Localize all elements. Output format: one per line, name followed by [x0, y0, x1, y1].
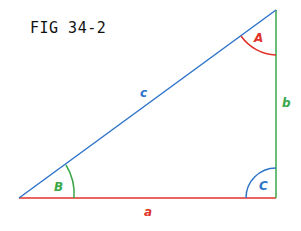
side-c — [19, 10, 276, 198]
side-b-label: b — [282, 96, 291, 110]
angle-a-label: A — [253, 31, 263, 45]
angle-c-label: C — [259, 179, 268, 193]
angle-b-arc — [66, 165, 74, 198]
angle-b-label: B — [54, 180, 63, 194]
side-a-label: a — [144, 205, 152, 219]
side-c-label: c — [140, 86, 147, 100]
right-triangle-diagram: c b a A B C — [0, 0, 301, 231]
